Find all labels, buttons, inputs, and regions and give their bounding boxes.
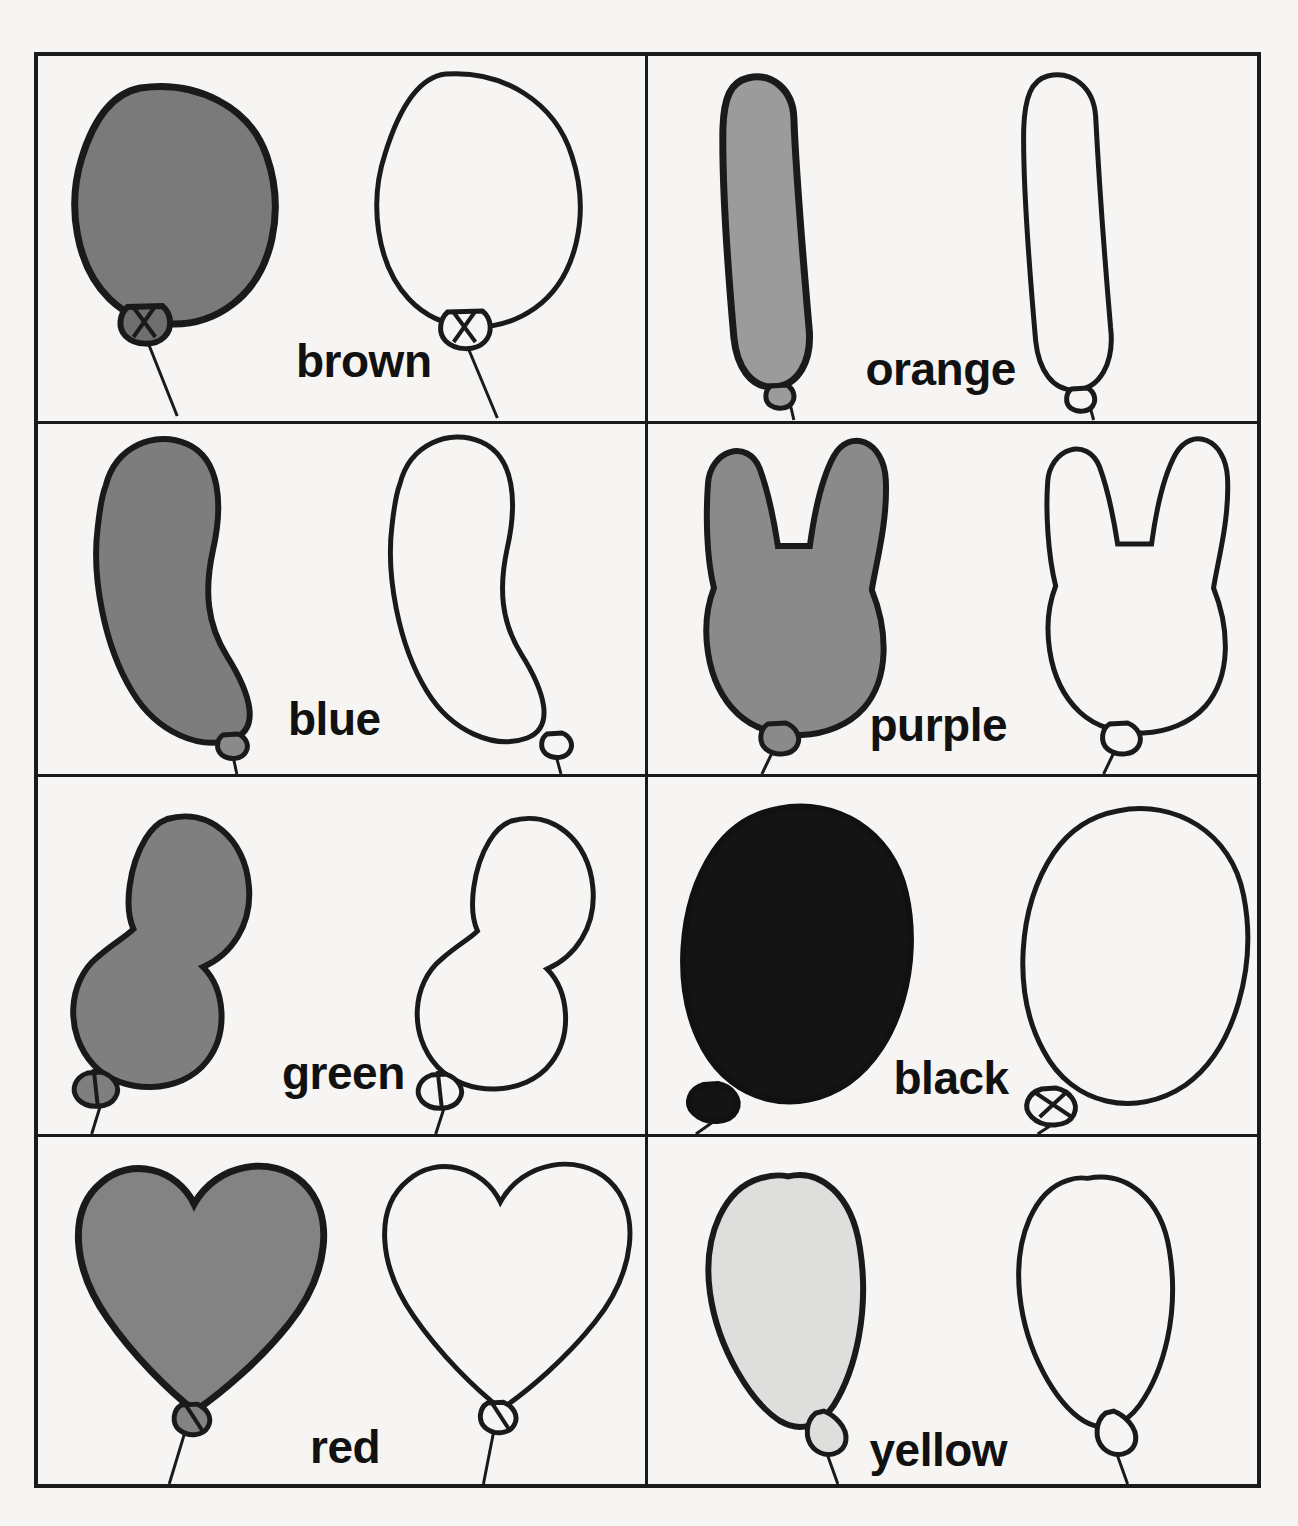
cell-red[interactable]: red (38, 1137, 648, 1484)
orange-balloon-knot (765, 385, 793, 408)
color-word-purple: purple (870, 702, 1008, 748)
blue-filled-balloon (96, 439, 250, 774)
red-outline-balloon (385, 1164, 630, 1484)
balloon-grid: brown orange (34, 52, 1261, 1488)
color-word-blue: blue (288, 696, 381, 742)
orange-outline-balloon (1023, 75, 1111, 420)
brown-filled-balloon (75, 87, 275, 416)
color-word-green: green (282, 1050, 405, 1096)
purple-outline-knot (1102, 723, 1140, 754)
brown-balloon-body (75, 87, 275, 325)
cell-black[interactable]: black (648, 777, 1258, 1137)
cell-blue[interactable]: blue (38, 424, 648, 777)
orange-outline-knot (1066, 388, 1094, 411)
brown-outline-body (377, 74, 580, 327)
cell-purple[interactable]: purple (648, 424, 1258, 777)
yellow-outline-balloon (1018, 1177, 1172, 1484)
cell-brown[interactable]: brown (38, 56, 648, 424)
cell-green[interactable]: green (38, 777, 648, 1137)
cell-yellow[interactable]: yellow (648, 1137, 1258, 1484)
worksheet-page: brown orange (0, 0, 1298, 1526)
orange-balloon-body (722, 77, 809, 387)
color-word-red: red (310, 1424, 380, 1470)
black-filled-balloon (683, 807, 911, 1134)
red-outline-knot (480, 1402, 516, 1433)
color-word-orange: orange (866, 346, 1016, 392)
purple-outline-body (1046, 439, 1227, 733)
black-balloon-knot (689, 1084, 738, 1121)
blue-balloon-knot (218, 734, 248, 759)
purple-balloon-body (706, 441, 886, 735)
red-balloon-knot (174, 1404, 210, 1435)
purple-outline-balloon (1046, 439, 1227, 774)
cell-orange[interactable]: orange (648, 56, 1258, 424)
green-filled-balloon (73, 816, 249, 1134)
orange-outline-body (1023, 75, 1111, 390)
color-word-yellow: yellow (870, 1427, 1008, 1473)
red-filled-balloon (78, 1166, 323, 1484)
yellow-balloon-knot (807, 1411, 846, 1454)
purple-filled-balloon (706, 441, 886, 774)
green-outline-balloon (417, 818, 593, 1134)
yellow-outline-body (1018, 1177, 1172, 1427)
blue-balloon-body (96, 439, 250, 743)
blue-outline-balloon (390, 437, 571, 774)
yellow-balloon-body (708, 1175, 863, 1427)
red-balloon-body (78, 1166, 323, 1411)
color-word-black: black (894, 1055, 1009, 1101)
black-balloon-body (683, 807, 911, 1102)
yellow-filled-balloon (708, 1175, 863, 1484)
color-word-brown: brown (296, 338, 431, 384)
black-outline-balloon (1022, 809, 1247, 1134)
blue-outline-body (390, 437, 544, 742)
purple-balloon-knot (760, 723, 798, 754)
blue-outline-knot (542, 733, 572, 758)
orange-filled-balloon (722, 77, 809, 420)
black-outline-body (1022, 809, 1247, 1104)
red-outline-body (385, 1164, 630, 1409)
green-balloon-body (73, 816, 249, 1087)
green-outline-body (417, 818, 593, 1089)
